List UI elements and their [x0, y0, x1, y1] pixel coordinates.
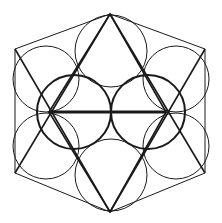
circle: [143, 113, 209, 179]
circle: [143, 46, 209, 112]
geometric-diagram: [0, 0, 222, 223]
circle: [75, 139, 147, 211]
